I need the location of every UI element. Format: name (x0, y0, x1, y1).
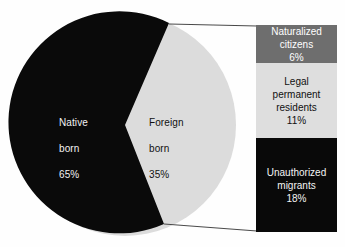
pie-label-native-born-name: Native (59, 116, 88, 129)
connector-line-top (169, 24, 257, 26)
pie-label-foreign-born-value: 35% (149, 168, 184, 181)
segment-unauthorized-label-1: Unauthorized (267, 166, 326, 179)
segment-legal-label-3: residents (276, 101, 317, 114)
pie-chart-figure: Native born 65% Foreign born 35% Natural… (0, 0, 345, 247)
breakdown-segment-naturalized-citizens[interactable]: Naturalized citizens 6% (256, 25, 337, 63)
foreign-born-breakdown-stack: Naturalized citizens 6% Legal permanent … (256, 25, 337, 232)
pie-label-foreign-born-name-2: born (149, 142, 184, 155)
segment-unauthorized-value: 18% (286, 192, 306, 205)
segment-naturalized-label-1: Naturalized (271, 25, 322, 38)
segment-legal-value: 11% (287, 114, 306, 127)
pie-label-foreign-born-name: Foreign (149, 116, 184, 129)
segment-naturalized-label-2: citizens (280, 38, 313, 51)
segment-legal-label-1: Legal (284, 75, 308, 88)
pie-label-native-born-name-2: born (59, 142, 88, 155)
pie-label-native-born-value: 65% (59, 168, 88, 181)
pie-label-foreign-born: Foreign born 35% (149, 103, 184, 194)
pie-label-native-born: Native born 65% (59, 103, 88, 194)
segment-naturalized-value: 6% (289, 51, 303, 64)
breakdown-segment-unauthorized-migrants[interactable]: Unauthorized migrants 18% (256, 138, 337, 232)
segment-legal-label-2: permanent (273, 88, 321, 101)
breakdown-segment-legal-permanent-residents[interactable]: Legal permanent residents 11% (256, 63, 337, 138)
segment-unauthorized-label-2: migrants (277, 179, 315, 192)
connector-line-bottom (164, 224, 257, 231)
